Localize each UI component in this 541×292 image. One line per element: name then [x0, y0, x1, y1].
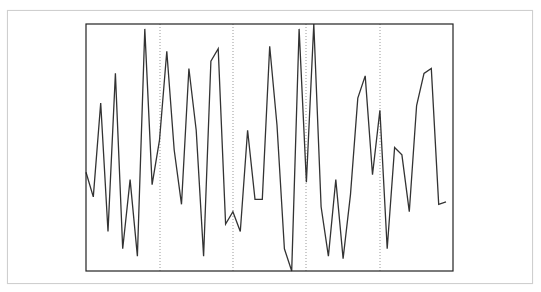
data-line — [86, 24, 446, 271]
line-chart — [0, 0, 541, 292]
vertical-gridlines — [160, 24, 380, 271]
